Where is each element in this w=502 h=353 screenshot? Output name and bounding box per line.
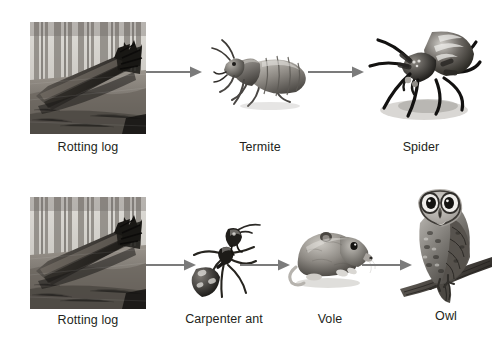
node-rotting-log-2: Rotting log — [30, 197, 146, 309]
termite-illustration — [204, 36, 316, 134]
node-rotting-log-1: Rotting log — [30, 22, 146, 134]
arrow-log-to-termite — [146, 64, 204, 80]
node-spider: Spider — [358, 18, 484, 134]
food-chain-row-1: Rotting log — [0, 0, 502, 176]
food-chain-diagram: Rotting log — [0, 0, 502, 353]
node-label: Vole — [284, 312, 376, 326]
node-label: Rotting log — [30, 313, 146, 327]
node-label: Spider — [358, 140, 484, 154]
node-label: Termite — [204, 140, 316, 154]
rotting-log-photo — [30, 197, 146, 309]
spider-illustration — [358, 18, 484, 134]
rotting-log-photo — [30, 22, 146, 134]
node-label: Carpenter ant — [176, 312, 272, 326]
node-owl: Owl — [396, 187, 496, 309]
owl-illustration — [396, 187, 496, 309]
node-label: Rotting log — [30, 140, 146, 154]
food-chain-row-2: Rotting log — [0, 177, 502, 353]
node-label: Owl — [396, 309, 496, 323]
node-termite: Termite — [204, 36, 316, 134]
